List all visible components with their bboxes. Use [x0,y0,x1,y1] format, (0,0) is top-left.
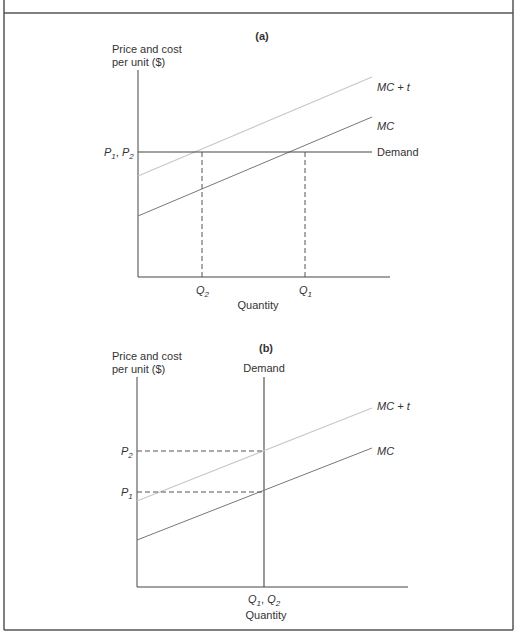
panel-b-demand-label: Demand [243,362,285,374]
panel-b-ylabel-line2: per unit ($) [112,363,165,375]
panel-a-mc-line [138,117,372,216]
panel-a-demand-label: Demand [377,146,419,158]
panel-a-xlabel: Quantity [238,299,279,311]
panel-b-p2-label: P2 [121,445,133,460]
panel-b-title: (b) [259,342,273,354]
panel-a-ylabel-line2: per unit ($) [112,56,165,68]
panel-a-q1-label: Q1 [299,284,312,299]
panel-a-title: (a) [255,30,269,42]
panel-a: (a) Price and cost per unit ($) MC + t M… [104,30,419,311]
panel-b-q-label: Q1, Q2 [248,593,281,608]
panel-b-mc-line [137,448,372,540]
panel-b-xlabel: Quantity [246,609,287,621]
panel-b-p1-label: P1 [121,486,133,501]
panel-a-q2-label: Q2 [196,284,210,299]
panel-a-mc-t-line [138,77,372,176]
panel-a-price-label: P1, P2 [104,146,134,161]
panel-b-mc-t-line [137,408,372,501]
panel-b-ylabel-line1: Price and cost [112,350,182,362]
figure-canvas: (a) Price and cost per unit ($) MC + t M… [0,0,525,637]
panel-b-mc-t-label: MC + t [377,400,411,412]
panel-a-mc-label: MC [377,120,394,132]
panel-a-mc-t-label: MC + t [377,81,411,93]
panel-a-ylabel-line1: Price and cost [112,43,182,55]
panel-b: (b) Price and cost per unit ($) Demand M… [112,342,411,621]
panel-b-mc-label: MC [377,445,394,457]
